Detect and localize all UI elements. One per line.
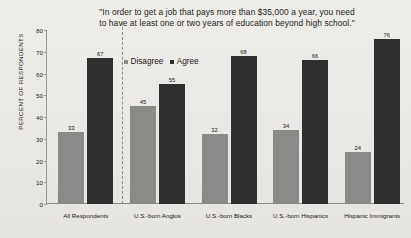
y-tick-label: 60 [36, 70, 43, 77]
plot-area: 01020304050607080 3367All Respondents455… [46, 30, 404, 204]
bar-disagree: 45 [130, 106, 156, 204]
bar-value-label: 45 [130, 99, 156, 105]
chart-title-line-2: to have at least one or two years of edu… [62, 18, 392, 29]
y-tick-mark [44, 52, 47, 53]
y-tick-mark [44, 30, 47, 31]
group-divider [122, 22, 123, 204]
legend-label-disagree: Disagree [131, 57, 164, 66]
chart-title-line-1: "In order to get a job that pays more th… [62, 7, 392, 18]
bar-value-label: 76 [374, 32, 400, 38]
y-tick-mark [44, 117, 47, 118]
y-tick-mark [44, 74, 47, 75]
y-tick-label: 20 [36, 157, 43, 164]
y-tick-label: 80 [36, 27, 43, 34]
legend-swatch-disagree-icon [124, 60, 128, 64]
chart-title: "In order to get a job that pays more th… [62, 7, 392, 29]
bar-value-label: 32 [202, 127, 228, 133]
y-tick-label: 10 [36, 179, 43, 186]
chart-legend: Disagree Agree [124, 57, 199, 66]
bar-value-label: 55 [159, 77, 185, 83]
bar-group: 2476Hispanic Immigrants [345, 30, 400, 204]
y-tick-label: 40 [36, 114, 43, 121]
bar-value-label: 67 [87, 51, 113, 57]
bar-value-label: 33 [58, 125, 84, 131]
bar-group: 3367All Respondents [58, 30, 113, 204]
bar-value-label: 68 [231, 49, 257, 55]
y-tick-mark [44, 139, 47, 140]
y-tick-label: 70 [36, 48, 43, 55]
bar-chart: "In order to get a job that pays more th… [0, 0, 411, 238]
y-tick-label: 0 [40, 201, 43, 208]
y-tick-label: 30 [36, 135, 43, 142]
legend-item-agree: Agree [170, 57, 198, 66]
y-tick-mark [44, 161, 47, 162]
x-axis-category-label: Hispanic Immigrants [307, 212, 411, 219]
bar-agree: 66 [302, 60, 328, 204]
bar-agree: 76 [374, 39, 400, 204]
bar-value-label: 24 [345, 145, 371, 151]
bar-group: 3466U.S.-born Hispanics [273, 30, 328, 204]
y-tick-mark [44, 95, 47, 96]
bar-value-label: 66 [302, 53, 328, 59]
y-tick-label: 50 [36, 92, 43, 99]
bar-agree: 68 [231, 56, 257, 204]
y-tick-mark [44, 182, 47, 183]
y-axis-label: PERCENT OF RESPONDENTS [17, 2, 24, 162]
bar-disagree: 33 [58, 132, 84, 204]
legend-swatch-agree-icon [170, 60, 174, 64]
bar-disagree: 34 [273, 130, 299, 204]
legend-item-disagree: Disagree [124, 57, 163, 66]
legend-label-agree: Agree [177, 57, 199, 66]
bar-disagree: 32 [202, 134, 228, 204]
bar-group: 3268U.S.-born Blacks [202, 30, 257, 204]
bar-disagree: 24 [345, 152, 371, 204]
bar-value-label: 34 [273, 123, 299, 129]
bar-agree: 67 [87, 58, 113, 204]
bar-agree: 55 [159, 84, 185, 204]
y-tick-mark [44, 204, 47, 205]
